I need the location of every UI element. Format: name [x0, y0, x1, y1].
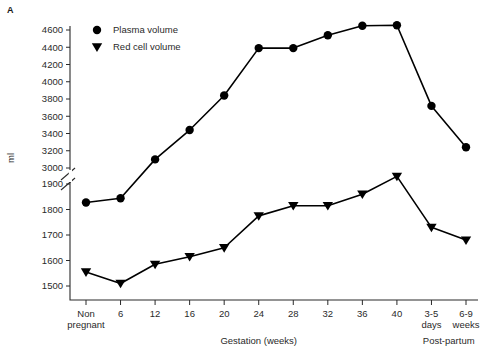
y-tick-label: 4600	[42, 24, 63, 35]
data-point	[427, 102, 435, 110]
y-tick-label: 1800	[42, 204, 63, 215]
series-red-cell-volume	[81, 173, 471, 289]
x-tick-sublabel: days	[421, 319, 441, 330]
x-tick-label: 16	[184, 308, 195, 319]
chart-axes	[70, 26, 478, 300]
line-chart-plasma-red-cell-volume: 3000320034003600380040004200440046001500…	[0, 0, 493, 360]
data-point	[116, 194, 124, 202]
x-tick-label: Non	[77, 308, 94, 319]
series-line	[86, 176, 466, 283]
y-tick-label: 4400	[42, 42, 63, 53]
x-tick-sublabel: weeks	[452, 319, 480, 330]
legend-label: Red cell volume	[113, 41, 181, 52]
axis-break-gap	[69, 170, 72, 182]
x-tick-label: 3-5	[425, 308, 439, 319]
y-tick-label: 3400	[42, 128, 63, 139]
x-axis-title-gestation: Gestation (weeks)	[220, 335, 297, 346]
data-point	[151, 155, 159, 163]
axis-break-slash	[61, 178, 75, 190]
y-axis-title: ml	[5, 153, 16, 163]
panel-letter: A	[7, 5, 14, 15]
data-point	[289, 44, 297, 52]
data-point	[115, 280, 125, 289]
legend-entry: Red cell volume	[92, 41, 181, 52]
y-tick-label: 1600	[42, 255, 63, 266]
data-point	[324, 31, 332, 39]
y-tick-label: 1500	[42, 280, 63, 291]
x-axis-title-postpartum: Post-partum	[423, 335, 475, 346]
x-tick-label: 12	[150, 308, 161, 319]
data-point	[393, 21, 401, 29]
y-axis-break	[61, 168, 75, 190]
y-tick-label: 1900	[42, 178, 63, 189]
y-tick-label: 1700	[42, 229, 63, 240]
data-point	[82, 198, 90, 206]
x-tick-label: 24	[253, 308, 264, 319]
x-tick-label: 36	[357, 308, 368, 319]
data-point	[462, 143, 470, 151]
data-point	[150, 261, 160, 270]
data-point	[185, 126, 193, 134]
data-point	[358, 21, 366, 29]
y-tick-label: 3000	[42, 162, 63, 173]
legend-circle-icon	[93, 26, 101, 34]
y-tick-label: 3600	[42, 111, 63, 122]
legend-triangle-icon	[92, 43, 102, 52]
x-tick-label: 32	[323, 308, 334, 319]
data-point	[220, 91, 228, 99]
x-tick-sublabel: pregnant	[67, 319, 105, 330]
legend-label: Plasma volume	[113, 24, 178, 35]
y-tick-label: 4000	[42, 76, 63, 87]
figure-panel-a: A 30003200340036003800400042004400460015…	[0, 0, 493, 360]
x-tick-label: 40	[392, 308, 403, 319]
y-tick-label: 4200	[42, 59, 63, 70]
axis-break-slash	[61, 168, 75, 180]
data-point	[461, 236, 471, 245]
x-tick-label: 20	[219, 308, 230, 319]
data-point	[392, 173, 402, 182]
data-point	[255, 44, 263, 52]
x-tick-label: 6	[118, 308, 123, 319]
y-tick-label: 3800	[42, 93, 63, 104]
y-tick-label: 3200	[42, 145, 63, 156]
legend-entry: Plasma volume	[93, 24, 178, 35]
x-tick-label: 6-9	[459, 308, 473, 319]
x-tick-label: 28	[288, 308, 299, 319]
